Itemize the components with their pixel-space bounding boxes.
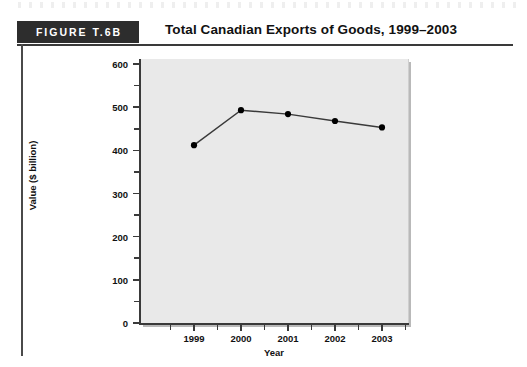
data-point-marker	[379, 124, 385, 130]
data-point-marker	[238, 107, 244, 113]
x-axis-title: Year	[140, 347, 408, 358]
data-series-line	[0, 0, 527, 367]
data-point-marker	[332, 118, 338, 124]
data-point-marker	[191, 142, 197, 148]
y-axis-title: Value ($ billion)	[27, 111, 38, 241]
data-point-marker	[285, 111, 291, 117]
